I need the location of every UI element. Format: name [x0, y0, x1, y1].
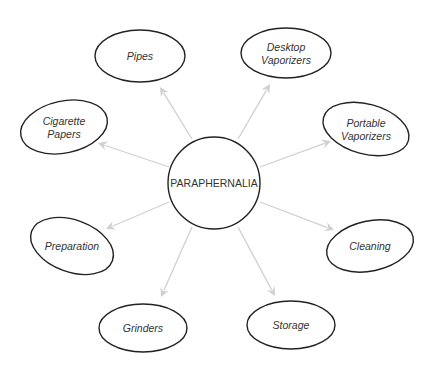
arrow-grinders — [161, 227, 192, 297]
arrow-line — [238, 227, 272, 290]
arrow-desktop-vaporizers — [238, 84, 270, 139]
node-label: Preparation — [45, 240, 99, 252]
node-label: Cleaning — [349, 240, 391, 252]
arrow-cigarette-papers — [98, 142, 169, 167]
arrow-line — [238, 90, 266, 139]
arrow-line — [260, 143, 324, 167]
node-label: Vaporizers — [261, 54, 312, 66]
arrow-line — [260, 202, 327, 228]
arrow-line — [164, 93, 192, 139]
arrow-line — [105, 145, 169, 167]
arrow-preparation — [106, 202, 169, 230]
node-label: Cigarette — [43, 115, 86, 127]
node-label: Papers — [47, 128, 81, 140]
node-cigarette-papers: CigarettePapers — [16, 92, 113, 161]
node-label: Vaporizers — [341, 130, 392, 142]
arrow-storage — [238, 227, 275, 296]
arrow-line — [112, 202, 169, 226]
node-label: Grinders — [123, 322, 164, 334]
center-node: PARAPHERNALIA — [168, 137, 260, 229]
node-label: Pipes — [127, 50, 154, 62]
paraphernalia-diagram: PipesDesktopVaporizersPortableVaporizers… — [0, 0, 435, 371]
arrow-portable-vaporizers — [260, 140, 331, 167]
center-label: PARAPHERNALIA — [170, 177, 257, 189]
node-preparation: Preparation — [23, 207, 122, 285]
arrowhead-icon — [160, 87, 169, 97]
arrow-line — [164, 227, 192, 291]
node-label: Portable — [346, 117, 385, 129]
node-cleaning: Cleaning — [322, 212, 418, 279]
arrow-cleaning — [260, 202, 334, 231]
arrowhead-icon — [262, 84, 270, 94]
node-storage: Storage — [247, 301, 335, 349]
arrow-pipes — [160, 87, 192, 139]
node-grinders: Grinders — [99, 304, 187, 352]
node-desktop-vaporizers: DesktopVaporizers — [241, 28, 331, 78]
node-portable-vaporizers: PortableVaporizers — [317, 93, 415, 164]
node-pipes: Pipes — [95, 30, 185, 82]
node-label: Storage — [273, 319, 310, 331]
node-label: Desktop — [267, 41, 306, 53]
